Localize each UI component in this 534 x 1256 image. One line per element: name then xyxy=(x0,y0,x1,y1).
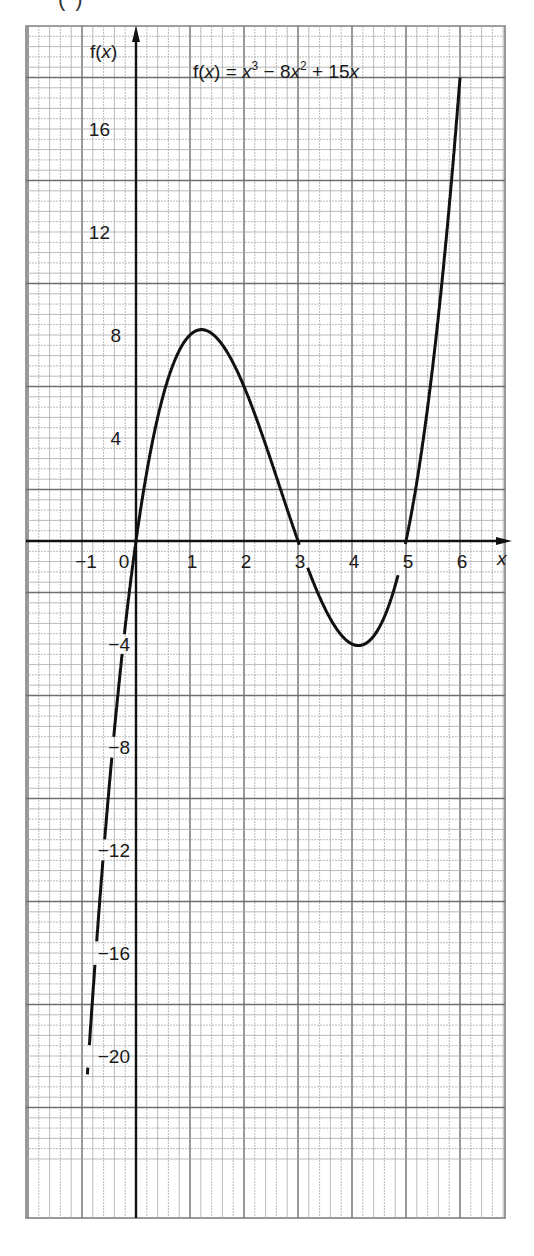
x-tick-label: 2 xyxy=(241,551,252,572)
x-axis-label: x xyxy=(496,548,508,569)
x-tick-label: 5 xyxy=(403,551,414,572)
graph-paper-grid xyxy=(26,26,505,1218)
y-tick-label: −8 xyxy=(108,737,130,758)
x-tick-label: 0 xyxy=(119,551,130,572)
y-tick-label: 12 xyxy=(89,222,110,243)
y-tick-label: −4 xyxy=(108,634,130,655)
chart-title: f(x) = x3 − 8x2 + 15x xyxy=(193,59,361,82)
y-tick-label: 8 xyxy=(110,325,121,346)
chart-title-text: f(x) = x3 − 8x2 + 15x xyxy=(193,59,361,82)
x-tick-label: 1 xyxy=(187,551,198,572)
function-graph: −10123456x161284−4−8−12−16−20f(x) f(x) =… xyxy=(0,0,534,1256)
x-tick-label: 4 xyxy=(349,551,360,572)
x-tick-label: 3 xyxy=(295,551,306,572)
x-tick-label: 6 xyxy=(457,551,468,572)
y-tick-label: 16 xyxy=(89,119,110,140)
y-tick-label: 4 xyxy=(110,428,121,449)
y-tick-label: −16 xyxy=(98,943,130,964)
y-tick-label: −20 xyxy=(98,1046,130,1067)
x-tick-label: −1 xyxy=(75,551,97,572)
y-tick-label: −12 xyxy=(98,840,130,861)
y-axis-label: f(x) xyxy=(90,41,117,62)
